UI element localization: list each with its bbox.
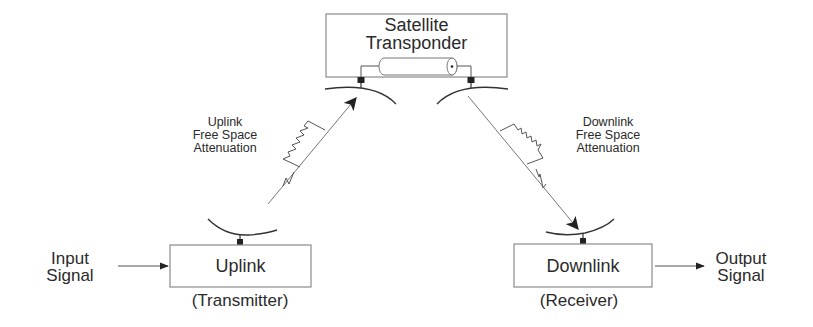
satellite-title-line1: Satellite (326, 16, 507, 34)
downlink-attenuation-line3: Attenuation (548, 142, 668, 155)
satellite-receive-dish-icon (325, 87, 396, 104)
output-signal-line2: Signal (701, 267, 781, 284)
satellite-title-line2: Transponder (326, 34, 507, 52)
output-signal-line1: Output (701, 250, 781, 267)
uplink-box-caption: (Transmitter) (160, 292, 320, 309)
uplink-dish-icon (208, 219, 277, 235)
downlink-box-label: Downlink (514, 257, 652, 275)
downlink-dish-icon (546, 219, 614, 235)
downlink-box-caption: (Receiver) (514, 292, 644, 309)
downlink-break-icon (536, 169, 546, 188)
downlink-resistor-icon (500, 124, 543, 164)
connector-icon (468, 77, 475, 83)
connector-icon (580, 238, 586, 244)
uplink-attenuation-line3: Attenuation (165, 142, 285, 155)
connector-icon (237, 239, 243, 245)
input-signal-line1: Input (30, 250, 110, 267)
uplink-box-label: Uplink (170, 257, 311, 275)
connector-icon (358, 77, 365, 83)
input-signal-line2: Signal (30, 267, 110, 284)
waveguide-icon (379, 58, 457, 75)
